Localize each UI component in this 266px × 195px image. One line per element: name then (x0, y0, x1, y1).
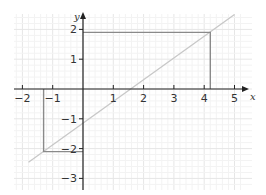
y-tick-label: −2 (61, 143, 77, 156)
y-axis-arrow-icon (80, 12, 86, 19)
coordinate-plot: −2−11234521−1−2−3xy (0, 0, 266, 195)
x-tick-label: −1 (45, 92, 61, 105)
y-tick-label: −1 (61, 113, 77, 126)
y-axis-name: y (73, 11, 80, 22)
x-tick-label: 4 (201, 92, 208, 105)
x-tick-label: 5 (231, 92, 238, 105)
x-tick-label: 2 (140, 92, 147, 105)
x-axis-arrow-icon (242, 86, 249, 92)
x-tick-label: −2 (14, 92, 30, 105)
y-tick-label: −3 (61, 172, 77, 185)
tick-labels: −2−11234521−1−2−3xy (14, 11, 256, 185)
x-tick-label: 1 (110, 92, 117, 105)
y-tick-label: 1 (70, 53, 77, 66)
x-axis-name: x (250, 91, 256, 102)
x-tick-label: 3 (170, 92, 177, 105)
y-tick-label: 2 (70, 23, 77, 36)
